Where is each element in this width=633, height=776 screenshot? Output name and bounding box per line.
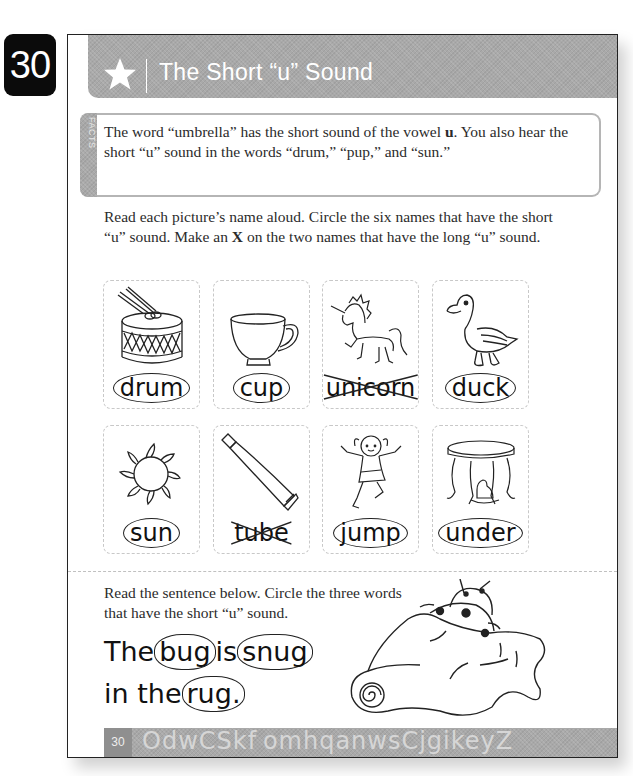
card-word-tube[interactable]: tube (214, 516, 309, 550)
page-number-tab: 30 (4, 34, 56, 96)
teacup-icon (214, 281, 309, 373)
x-mark-icon (322, 373, 420, 401)
card-word-sun[interactable]: sun (104, 516, 199, 550)
sun-icon (104, 426, 199, 518)
x-mark-icon (230, 518, 293, 546)
card-word-cup[interactable]: cup (214, 371, 309, 405)
girl-jumping-icon (323, 426, 418, 518)
circled-word-rug[interactable]: rug. (182, 676, 246, 712)
sentence-word: is (216, 636, 238, 667)
card-word-drum[interactable]: drum (104, 371, 199, 405)
card-word-duck[interactable]: duck (433, 371, 528, 405)
circled-word[interactable]: under (438, 518, 522, 548)
card-word-unicorn[interactable]: unicorn (323, 371, 418, 405)
footer-page-number: 30 (104, 728, 132, 757)
picture-card-sun[interactable]: sun (103, 425, 200, 554)
card-word-jump[interactable]: jump (323, 516, 418, 550)
sentence-word: rug (187, 678, 232, 709)
picture-card-drum[interactable]: drum (103, 280, 200, 409)
tube-icon (214, 426, 309, 518)
header-divider (146, 59, 147, 93)
star-icon (103, 57, 137, 91)
picture-card-duck[interactable]: duck (432, 280, 529, 409)
sentence-word: The (104, 636, 154, 667)
footer-band: 30 OdwCSkf omhqanwsCjgikeyZ (104, 728, 617, 757)
exercise-instructions: Read each picture’s name aloud. Circle t… (104, 207, 574, 247)
practice-sentence: Thebugissnug in therug. (104, 631, 364, 715)
dog-under-table-icon (433, 426, 528, 518)
circled-word-snug[interactable]: snug (237, 634, 312, 670)
picture-card-tube[interactable]: tube (213, 425, 310, 554)
picture-card-under[interactable]: under (432, 425, 529, 554)
instructions-x: X (232, 228, 243, 245)
instructions-text: on the two names that have the long “u” … (243, 228, 540, 245)
picture-card-unicorn[interactable]: unicorn (322, 280, 419, 409)
sentence-period: . (232, 678, 241, 709)
facts-label: FACTS (81, 117, 97, 167)
header-band: The Short “u” Sound (88, 35, 617, 98)
picture-card-jump[interactable]: jump (322, 425, 419, 554)
circled-word[interactable]: drum (113, 373, 191, 403)
section-divider (68, 571, 617, 572)
circled-word[interactable]: duck (445, 373, 517, 403)
ladybugs-in-rug-icon (330, 579, 555, 719)
page-title: The Short “u” Sound (159, 59, 373, 86)
facts-text: The word “umbrella” has the short sound … (104, 122, 584, 162)
decorative-alphabet: OdwCSkf omhqanwsCjgikeyZ (142, 726, 513, 757)
facts-text-part: The word “umbrella” has the short sound … (104, 123, 445, 140)
circled-word[interactable]: cup (233, 373, 291, 403)
facts-vowel: u (445, 123, 454, 140)
sentence-word: in the (104, 678, 182, 709)
drum-icon (104, 281, 199, 373)
worksheet-page: The Short “u” Sound FACTS The word “umbr… (67, 34, 618, 758)
circled-word[interactable]: jump (333, 518, 408, 548)
unicorn-icon (323, 281, 418, 373)
circled-word[interactable]: sun (123, 518, 180, 548)
crossed-word[interactable]: unicorn (324, 371, 418, 405)
duck-icon (433, 281, 528, 373)
circled-word-bug[interactable]: bug (154, 634, 215, 670)
card-word-under[interactable]: under (433, 516, 528, 550)
picture-card-cup[interactable]: cup (213, 280, 310, 409)
crossed-word[interactable]: tube (232, 516, 291, 550)
